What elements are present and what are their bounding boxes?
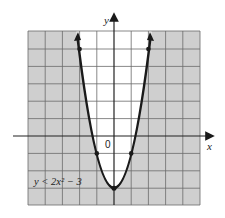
origin-label: 0 [105,139,111,150]
graph: y x 0 y < 2x² − 3 [0,0,225,218]
inequality-label: y < 2x² − 3 [33,176,82,187]
x-axis-label: x [206,140,212,152]
y-axis-label: y [103,14,109,26]
